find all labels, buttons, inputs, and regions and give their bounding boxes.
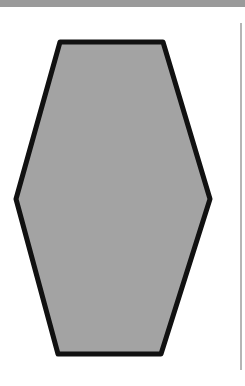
vertical-divider — [240, 23, 242, 370]
hexagon-shape — [16, 42, 210, 354]
hexagon-figure — [0, 0, 245, 386]
